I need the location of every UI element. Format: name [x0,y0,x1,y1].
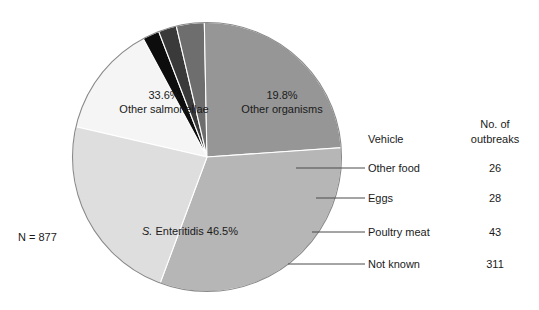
pie-slices-group [73,23,342,292]
legend-row-value-eggs: 28 [465,192,525,204]
legend-row-value-poultry-meat: 43 [465,226,525,238]
legend-header-outbreaks-line1: No. of [455,118,535,130]
legend-header-outbreaks-line2: outbreaks [455,133,535,145]
slice-label-other-organisms-percent: 19.8% [266,89,297,101]
legend-row-value-not-known: 311 [465,258,525,270]
legend-row-label-eggs: Eggs [368,192,393,204]
slice-label-other-organisms-name: Other organisms [241,103,323,115]
total-n-label: N = 877 [18,231,57,243]
slice-label-other-salmonellae-percent: 33.6% [148,89,179,101]
legend-header-vehicle: Vehicle [368,133,403,145]
slice-label-other-salmonellae-name: Other salmonellae [119,103,208,115]
legend-row-label-other-food: Other food [368,162,420,174]
legend-row-label-poultry-meat: Poultry meat [368,226,430,238]
legend-row-label-not-known: Not known [368,258,420,270]
pie-chart-figure: 33.6% Other salmonellae 19.8% Other orga… [0,0,539,310]
slice-label-s-enteritidis: S. Enteritidis 46.5% [142,225,238,237]
pie-chart-canvas: 33.6% Other salmonellae 19.8% Other orga… [0,0,539,310]
legend-row-value-other-food: 26 [465,162,525,174]
